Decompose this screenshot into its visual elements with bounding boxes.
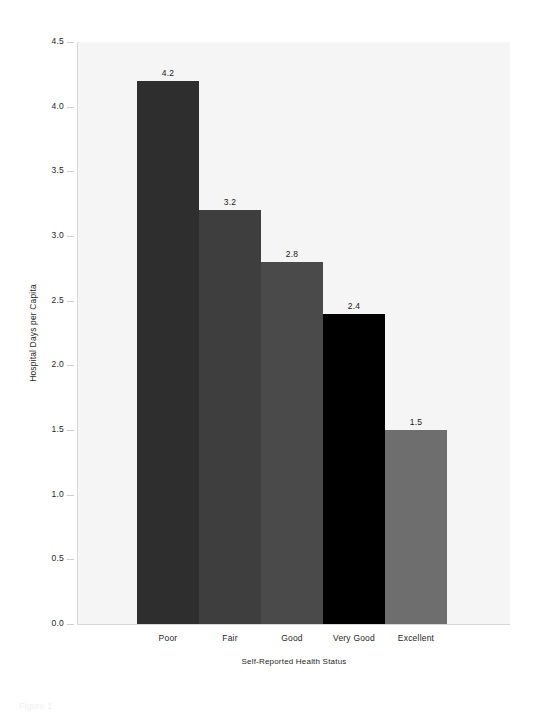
y-axis-tick-label: 3.5	[52, 165, 64, 175]
y-axis-tick-label: 3.0	[52, 230, 64, 240]
x-axis-tick-label: Excellent	[373, 633, 459, 643]
y-axis-tick-mark	[67, 301, 74, 302]
x-axis-title: Self-Reported Health Status	[78, 657, 510, 666]
y-axis-tick-mark	[67, 495, 74, 496]
y-axis-spine	[77, 42, 78, 625]
bar[interactable]	[261, 262, 323, 624]
figure-container: 0.00.51.01.52.02.53.03.54.04.5 4.23.22.8…	[0, 0, 536, 712]
y-axis-tick-label: 0.0	[52, 618, 64, 628]
y-axis-tick-mark	[67, 236, 74, 237]
y-axis-tick-label: 4.0	[52, 101, 64, 111]
y-axis-tick-label: 2.0	[52, 359, 64, 369]
y-axis-tick-label: 2.5	[52, 295, 64, 305]
y-axis-tick-mark	[67, 107, 74, 108]
bar[interactable]	[323, 314, 385, 624]
y-axis-tick-mark	[67, 624, 74, 625]
bar-value-label: 2.4	[323, 301, 385, 311]
y-axis-tick-mark	[67, 42, 74, 43]
bar[interactable]	[385, 430, 447, 624]
y-axis-tick-mark	[67, 559, 74, 560]
bar[interactable]	[199, 210, 261, 624]
bar-value-label: 2.8	[261, 249, 323, 259]
bar[interactable]	[137, 81, 199, 624]
y-axis-tick-mark	[67, 430, 74, 431]
x-axis-spine	[77, 624, 510, 625]
bar-value-label: 3.2	[199, 197, 261, 207]
y-axis-tick-mark	[67, 171, 74, 172]
bar-value-label: 1.5	[385, 417, 447, 427]
figure-caption: Figure 1	[19, 701, 52, 712]
y-axis-tick-label: 0.5	[52, 553, 64, 563]
y-axis-tick-label: 4.5	[52, 36, 64, 46]
y-axis-tick-label: 1.0	[52, 489, 64, 499]
y-axis-tick-mark	[67, 365, 74, 366]
y-axis-title: Hospital Days per Capita	[26, 42, 40, 624]
bar-value-label: 4.2	[137, 68, 199, 78]
y-axis-tick-label: 1.5	[52, 424, 64, 434]
